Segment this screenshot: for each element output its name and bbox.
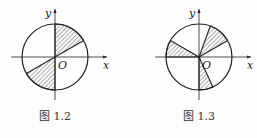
x-axis-label: x [103, 59, 110, 72]
y-axis-label: y [44, 7, 52, 20]
caption-figure-1-2: 图 1.2 [25, 107, 85, 123]
caption-figure-1-3: 图 1.3 [169, 107, 229, 123]
shaded-sector [199, 26, 228, 57]
figure-1-2: xyO [11, 7, 110, 100]
y-axis-label: y [188, 7, 196, 20]
shaded-sector [26, 57, 55, 90]
origin-label: O [202, 59, 211, 72]
figure-1-3: xyO [155, 7, 254, 100]
origin-label: O [58, 59, 67, 72]
shaded-sector [166, 41, 199, 58]
x-axis-label: x [247, 59, 254, 72]
shaded-sector [55, 24, 84, 57]
